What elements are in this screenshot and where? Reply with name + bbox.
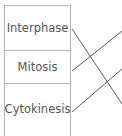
connector-mitosis bbox=[72, 31, 122, 71]
connector-interphase bbox=[72, 29, 122, 104]
connector-cytokinesis bbox=[72, 69, 122, 112]
connector-lines bbox=[0, 0, 122, 136]
